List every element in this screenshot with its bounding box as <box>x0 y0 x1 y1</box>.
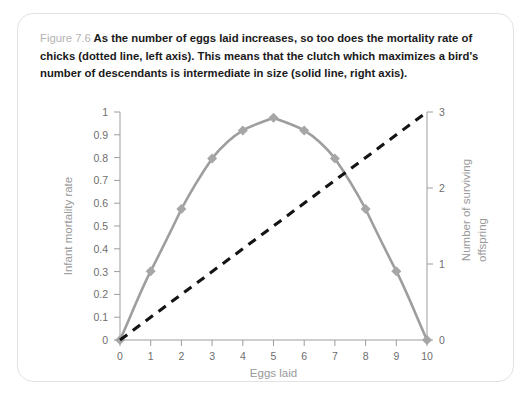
x-tick-label: 10 <box>421 350 433 362</box>
right-tick-label: 3 <box>439 106 445 118</box>
right-tick-label: 0 <box>439 334 445 346</box>
x-axis-tick-labels: 0 1 2 3 4 5 6 7 8 9 10 <box>117 350 433 362</box>
data-point-marker <box>269 113 279 123</box>
data-point-marker <box>361 204 371 214</box>
x-tick-label: 3 <box>209 350 215 362</box>
left-axis-tick-labels: 1 0.9 0.8 0.7 0.6 0.5 0.4 0.3 0.2 0.1 0 <box>93 106 108 346</box>
left-tick-label: 0.1 <box>93 311 108 323</box>
x-tick-label: 2 <box>178 350 184 362</box>
left-tick-label: 0.5 <box>93 220 108 232</box>
data-point-marker <box>146 266 156 276</box>
x-tick-label: 8 <box>363 350 369 362</box>
right-tick-label: 2 <box>439 182 445 194</box>
left-axis-title: Infant mortality rate <box>62 177 74 275</box>
data-point-marker <box>176 204 186 214</box>
left-tick-label: 0.2 <box>93 288 108 300</box>
data-point-marker <box>422 335 432 345</box>
figure-caption-text: As the number of eggs laid increases, so… <box>40 32 478 79</box>
x-axis-title: Eggs laid <box>250 367 297 379</box>
left-tick-label: 0 <box>102 334 108 346</box>
left-tick-label: 0.9 <box>93 129 108 141</box>
figure-caption: Figure 7.6 As the number of eggs laid in… <box>40 30 492 83</box>
eggs-laid-chart: 1 0.9 0.8 0.7 0.6 0.5 0.4 0.3 0.2 0.1 0 <box>18 92 513 382</box>
x-tick-label: 4 <box>240 350 246 362</box>
figure-card: Figure 7.6 As the number of eggs laid in… <box>17 13 514 382</box>
data-point-marker <box>391 266 401 276</box>
right-tick-label: 1 <box>439 258 445 270</box>
right-axis-ticks <box>427 112 433 340</box>
left-tick-label: 0.6 <box>93 197 108 209</box>
x-tick-label: 0 <box>117 350 123 362</box>
left-tick-label: 0.4 <box>93 243 108 255</box>
x-tick-label: 1 <box>148 350 154 362</box>
x-tick-label: 5 <box>271 350 277 362</box>
x-tick-label: 6 <box>301 350 307 362</box>
left-tick-label: 0.3 <box>93 266 108 278</box>
left-tick-label: 0.7 <box>93 174 108 186</box>
left-axis-ticks <box>114 112 120 340</box>
left-tick-label: 1 <box>102 106 108 118</box>
right-axis-tick-labels: 3 2 1 0 <box>439 106 445 346</box>
chart-plot-area: 1 0.9 0.8 0.7 0.6 0.5 0.4 0.3 0.2 0.1 0 <box>18 92 513 382</box>
right-axis-title-line2: offspring <box>476 218 488 262</box>
right-axis-title-line1: Number of surviving <box>460 159 472 261</box>
left-tick-label: 0.8 <box>93 152 108 164</box>
x-tick-label: 7 <box>332 350 338 362</box>
figure-number-label: Figure 7.6 <box>40 32 91 44</box>
infant-mortality-line <box>120 112 427 340</box>
x-tick-label: 9 <box>393 350 399 362</box>
x-axis-ticks <box>120 340 427 346</box>
